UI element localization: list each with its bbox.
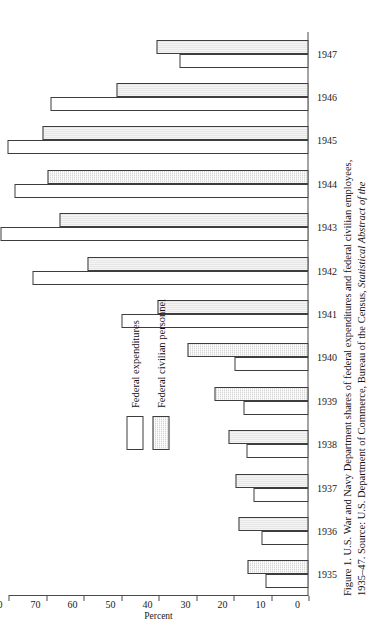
legend-swatch-white-open-square bbox=[126, 416, 143, 450]
bar-1938-expenditures bbox=[246, 444, 308, 458]
bar-1939-expenditures bbox=[243, 401, 308, 415]
value-tick-label-10: 10 bbox=[249, 598, 271, 612]
category-label-1946: 1946 bbox=[314, 92, 340, 103]
value-tick-label-40: 40 bbox=[136, 598, 158, 612]
category-label-1936: 1936 bbox=[314, 525, 340, 536]
rotated-figure-wrapper: Percent 01020304050607080 19351936193719… bbox=[0, 0, 379, 634]
bar-1936-personnel bbox=[238, 517, 309, 531]
value-tick-label-70: 70 bbox=[24, 598, 46, 612]
bar-1946-personnel bbox=[116, 83, 308, 97]
bar-group-1943: 1943 bbox=[8, 206, 308, 249]
value-tick-label-60: 60 bbox=[61, 598, 83, 612]
value-tick-label-50: 50 bbox=[99, 598, 121, 612]
bar-1935-expenditures bbox=[265, 574, 308, 588]
caption-line-2: 1935–47. Source: U.S. Department of Comm… bbox=[354, 30, 368, 596]
category-label-1945: 1945 bbox=[314, 135, 340, 146]
bar-1936-expenditures bbox=[261, 531, 308, 545]
legend-entries: Federal expendituresFederal civilian per… bbox=[124, 250, 176, 450]
value-tick-40: 40 bbox=[158, 596, 159, 601]
value-tick-20: 20 bbox=[233, 596, 234, 601]
bar-1940-personnel bbox=[187, 343, 308, 357]
category-label-1935: 1935 bbox=[314, 569, 340, 580]
value-tick-70: 70 bbox=[46, 596, 47, 601]
value-tick-label-80: 80 bbox=[0, 598, 8, 612]
bar-group-1946: 1946 bbox=[8, 75, 308, 118]
bar-group-1947: 1947 bbox=[8, 32, 308, 75]
bar-1937-expenditures bbox=[253, 488, 308, 502]
value-tick-60: 60 bbox=[83, 596, 84, 601]
bar-1940-expenditures bbox=[234, 357, 308, 371]
category-label-1937: 1937 bbox=[314, 482, 340, 493]
caption-source-text: 1935–47. Source: U.S. Department of Comm… bbox=[355, 288, 366, 596]
bar-1945-personnel bbox=[42, 126, 308, 140]
bar-group-1936: 1936 bbox=[8, 509, 308, 552]
bar-group-1937: 1937 bbox=[8, 466, 308, 509]
caption-line-1: Figure 1. U.S. War and Navy Department s… bbox=[340, 30, 354, 596]
bar-1947-expenditures bbox=[179, 54, 308, 68]
figure-caption: Figure 1. U.S. War and Navy Department s… bbox=[340, 30, 368, 596]
category-label-1947: 1947 bbox=[314, 48, 340, 59]
bar-1944-expenditures bbox=[14, 184, 308, 198]
legend-swatch-gray-hatched-square bbox=[152, 416, 169, 450]
figure-page: Percent 01020304050607080 19351936193719… bbox=[0, 0, 379, 634]
value-tick-50: 50 bbox=[121, 596, 122, 601]
category-label-1940: 1940 bbox=[314, 352, 340, 363]
bar-1947-personnel bbox=[156, 40, 308, 54]
value-tick-10: 10 bbox=[271, 596, 272, 601]
bar-1941-personnel bbox=[157, 300, 308, 314]
bar-1939-personnel bbox=[214, 387, 308, 401]
value-tick-label-30: 30 bbox=[174, 598, 196, 612]
bar-group-1935: 1935 bbox=[8, 553, 308, 596]
caption-source-title: Statistical Abstract of the bbox=[355, 182, 366, 288]
bar-1935-personnel bbox=[247, 560, 308, 574]
legend-entry-expenditures: Federal expenditures bbox=[124, 250, 144, 450]
category-label-1943: 1943 bbox=[314, 222, 340, 233]
bar-1945-expenditures bbox=[7, 140, 308, 154]
bar-1942-personnel bbox=[87, 257, 308, 271]
bar-1943-personnel bbox=[59, 213, 308, 227]
category-label-1942: 1942 bbox=[314, 265, 340, 276]
legend-label-expenditures: Federal expenditures bbox=[129, 320, 140, 408]
value-tick-80: 80 bbox=[8, 596, 9, 601]
bar-1946-expenditures bbox=[50, 97, 308, 111]
bar-1937-personnel bbox=[235, 474, 309, 488]
category-label-1941: 1941 bbox=[314, 309, 340, 320]
bar-1944-personnel bbox=[47, 170, 308, 184]
category-label-1944: 1944 bbox=[314, 178, 340, 189]
bar-1938-personnel bbox=[228, 430, 308, 444]
value-tick-0: 0 bbox=[308, 596, 309, 601]
value-tick-30: 30 bbox=[196, 596, 197, 601]
bar-1943-expenditures bbox=[0, 227, 308, 241]
bar-group-1945: 1945 bbox=[8, 119, 308, 162]
legend-entry-personnel: Federal civilian personnel bbox=[150, 250, 170, 450]
bar-chart-figure: Percent 01020304050607080 19351936193719… bbox=[0, 0, 379, 634]
bar-group-1944: 1944 bbox=[8, 162, 308, 205]
value-axis-title: Percent bbox=[144, 611, 173, 621]
value-tick-label-20: 20 bbox=[211, 598, 233, 612]
category-label-1938: 1938 bbox=[314, 439, 340, 450]
category-label-1939: 1939 bbox=[314, 395, 340, 406]
legend-label-personnel: Federal civilian personnel bbox=[155, 299, 166, 408]
value-tick-label-0: 0 bbox=[286, 598, 308, 612]
